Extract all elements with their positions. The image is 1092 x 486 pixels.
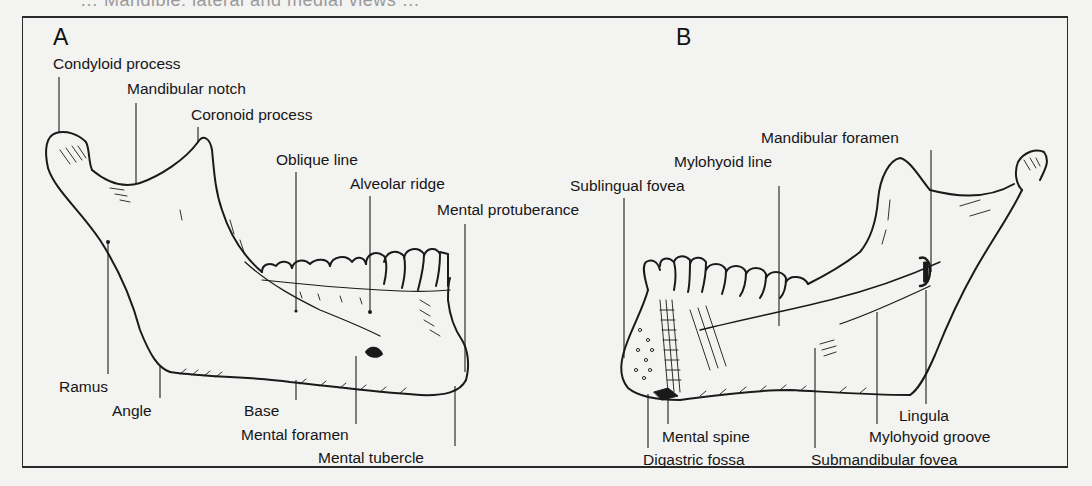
- label-sublingual-fovea: Sublingual fovea: [570, 178, 685, 194]
- label-lingula: Lingula: [899, 408, 949, 424]
- label-mental-foramen: Mental foramen: [241, 427, 349, 443]
- label-angle: Angle: [112, 403, 152, 419]
- panel-label-a: A: [53, 24, 68, 51]
- label-digastric-fossa: Digastric fossa: [643, 452, 745, 468]
- label-base: Base: [244, 403, 279, 419]
- label-mandibular-notch: Mandibular notch: [127, 81, 246, 97]
- label-ramus: Ramus: [59, 379, 108, 395]
- label-alveolar-ridge: Alveolar ridge: [350, 176, 445, 192]
- panel-label-b: B: [676, 24, 691, 51]
- label-mental-spine: Mental spine: [662, 429, 750, 445]
- label-mylohyoid-groove: Mylohyoid groove: [869, 429, 990, 445]
- label-condyloid-process: Condyloid process: [53, 56, 181, 72]
- mandible-medial-view: [621, 150, 1047, 400]
- label-coronoid-process: Coronoid process: [191, 107, 312, 123]
- label-oblique-line: Oblique line: [276, 152, 358, 168]
- label-mental-tubercle: Mental tubercle: [318, 450, 424, 466]
- label-mental-protuberance: Mental protuberance: [437, 202, 579, 218]
- label-mylohyoid-line: Mylohyoid line: [674, 154, 772, 170]
- label-submandibular-fovea: Submandibular fovea: [811, 452, 958, 468]
- label-mandibular-foramen: Mandibular foramen: [761, 130, 899, 146]
- mandible-lateral-view: [46, 132, 468, 395]
